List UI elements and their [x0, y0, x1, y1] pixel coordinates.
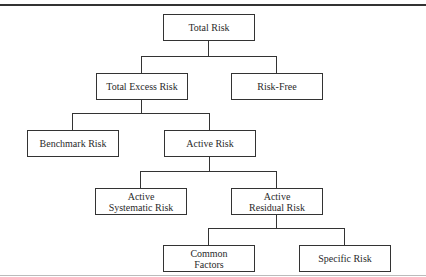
node-common-factors: Common Factors: [163, 245, 255, 272]
node-label: Specific Risk: [318, 253, 372, 264]
connector: [141, 56, 142, 73]
connector: [141, 56, 277, 57]
node-label: Benchmark Risk: [40, 138, 107, 149]
connector: [208, 228, 209, 245]
connector: [72, 113, 210, 114]
node-label-line2: Residual Risk: [249, 202, 305, 213]
node-active-systematic-risk: Active Systematic Risk: [95, 188, 187, 215]
top-rule: [0, 4, 426, 6]
node-total-risk: Total Risk: [163, 14, 255, 41]
connector: [344, 228, 345, 245]
connector: [208, 40, 209, 56]
node-label-line1: Common: [190, 248, 227, 259]
node-label: Active Risk: [186, 138, 234, 149]
risk-decomposition-diagram: Total Risk Total Excess Risk Risk-Free B…: [0, 0, 426, 277]
connector: [141, 99, 142, 113]
node-label-line2: Systematic Risk: [109, 202, 174, 213]
connector: [276, 214, 277, 228]
node-label: Total Excess Risk: [106, 81, 178, 92]
node-label: Total Risk: [188, 22, 229, 33]
node-label-line2: Factors: [194, 259, 223, 270]
connector: [140, 171, 277, 172]
connector: [276, 171, 277, 188]
bottom-rule: [0, 275, 426, 276]
node-risk-free: Risk-Free: [231, 73, 323, 100]
connector: [140, 171, 141, 188]
node-label: Risk-Free: [257, 81, 296, 92]
connector: [72, 113, 73, 130]
node-total-excess-risk: Total Excess Risk: [96, 73, 188, 100]
node-label-line1: Active: [128, 191, 155, 202]
node-active-residual-risk: Active Residual Risk: [231, 188, 323, 215]
node-label-line1: Active: [264, 191, 291, 202]
connector: [209, 113, 210, 130]
connector: [209, 156, 210, 171]
connector: [208, 228, 345, 229]
connector: [276, 56, 277, 73]
node-specific-risk: Specific Risk: [299, 245, 391, 272]
node-benchmark-risk: Benchmark Risk: [27, 130, 119, 157]
node-active-risk: Active Risk: [164, 130, 256, 157]
